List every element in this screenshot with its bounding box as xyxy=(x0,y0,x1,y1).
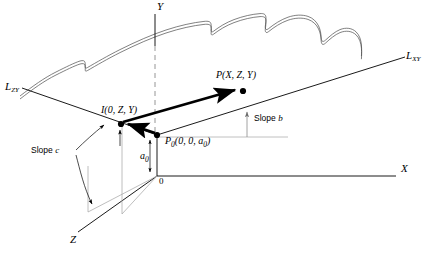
slope-b-word: Slope xyxy=(254,113,276,123)
boundary-label-lxy: LXY xyxy=(406,50,420,61)
slope-b-label: Slope b xyxy=(254,114,283,123)
projection-line-ground-diagonal-2 xyxy=(122,176,157,214)
slope-c-label: Slope c xyxy=(31,146,59,155)
point-label-P: P(X, Z, Y) xyxy=(216,70,256,80)
point-label-P0: P0(0, 0, a0) xyxy=(165,136,210,149)
diagram-svg xyxy=(0,0,427,256)
figure-container: Y X Z 0 LZY LXY P(X, Z, Y) I(0, Z, Y) P0… xyxy=(0,0,427,256)
torn-surface-edge xyxy=(20,14,362,99)
point-label-P0-rest: (0, 0, a xyxy=(175,135,203,146)
point-marker-P0 xyxy=(154,132,160,138)
slope-c-variable: c xyxy=(55,145,59,155)
axis-label-x: X xyxy=(401,163,408,174)
axis-label-z: Z xyxy=(70,234,76,245)
axis-label-y: Y xyxy=(157,1,163,12)
vector-I-to-P xyxy=(123,90,235,122)
point-marker-P xyxy=(240,88,246,94)
point-label-P0-tail: ) xyxy=(207,135,210,146)
slope-c-leader-short xyxy=(76,125,104,150)
line-LXY xyxy=(157,57,405,135)
a0-label: a0 xyxy=(140,151,149,164)
slope-c-word: Slope xyxy=(31,145,53,155)
projection-line-ground-diagonal xyxy=(88,176,157,212)
boundary-label-lzy: LZY xyxy=(5,81,19,92)
boundary-label-lzy-subscript: ZY xyxy=(11,86,19,94)
origin-label: 0 xyxy=(159,177,164,186)
point-marker-I xyxy=(118,121,124,127)
slope-c-leader-long xyxy=(76,155,92,204)
a0-label-subscript: 0 xyxy=(145,155,149,164)
z-axis-line xyxy=(78,176,157,232)
vector-P0-to-I xyxy=(128,124,155,133)
boundary-label-lxy-subscript: XY xyxy=(412,55,420,63)
slope-b-variable: b xyxy=(278,113,283,123)
point-label-I: I(0, Z, Y) xyxy=(101,105,137,115)
